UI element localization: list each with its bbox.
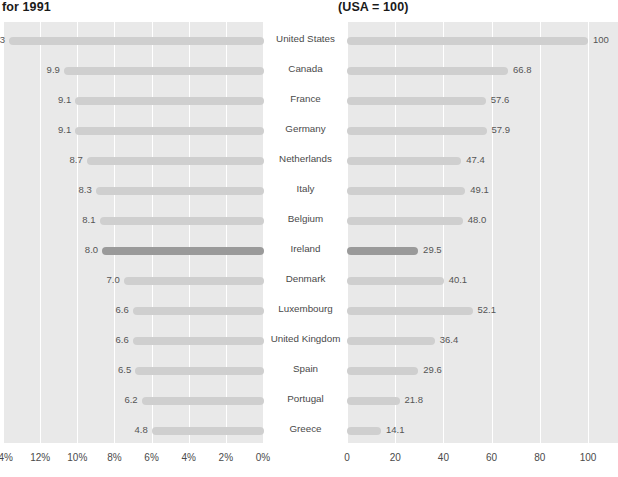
bar-right bbox=[347, 277, 444, 285]
bar-right bbox=[347, 427, 381, 435]
bar-left-container: 6.6 bbox=[3, 326, 264, 356]
bar-value-label-left: 9.1 bbox=[58, 124, 71, 135]
bar-left bbox=[100, 217, 264, 225]
bar-value-label-right: 29.6 bbox=[423, 364, 442, 375]
bar-right bbox=[347, 37, 588, 45]
chart-row: 9.1France57.6 bbox=[0, 86, 618, 116]
chart-row: 9.1Germany57.9 bbox=[0, 116, 618, 146]
bar-value-label-left: 8.7 bbox=[70, 154, 83, 165]
chart-row: 8.1Belgium48.0 bbox=[0, 206, 618, 236]
bar-right-container: 29.5 bbox=[347, 236, 618, 266]
category-label: Portugal bbox=[264, 393, 347, 404]
chart-row: 8.3Italy49.1 bbox=[0, 176, 618, 206]
x-tick-right: 100 bbox=[580, 452, 597, 463]
bar-left bbox=[142, 397, 264, 405]
category-label: France bbox=[264, 93, 347, 104]
x-tick-left: 8% bbox=[107, 452, 121, 463]
bar-right-container: 57.9 bbox=[347, 116, 618, 146]
x-tick-left: 12% bbox=[30, 452, 50, 463]
bar-left-container: 7.0 bbox=[3, 266, 264, 296]
bar-value-label-left: 8.3 bbox=[78, 184, 91, 195]
bar-value-label-right: 47.4 bbox=[466, 154, 485, 165]
category-label: Germany bbox=[264, 123, 347, 134]
bar-right bbox=[347, 367, 418, 375]
bar-left-container: 13.3 bbox=[3, 26, 264, 56]
paired-bar-chart: 13.3United States1009.9Canada66.89.1Fran… bbox=[0, 0, 618, 477]
category-label: Belgium bbox=[264, 213, 347, 224]
bar-left-container: 9.9 bbox=[3, 56, 264, 86]
bar-value-label-right: 100 bbox=[593, 34, 609, 45]
category-label: Canada bbox=[264, 63, 347, 74]
bar-right-container: 66.8 bbox=[347, 56, 618, 86]
x-tick-right: 80 bbox=[534, 452, 545, 463]
bar-value-label-right: 49.1 bbox=[470, 184, 489, 195]
bar-right-container: 40.1 bbox=[347, 266, 618, 296]
x-tick-left: 4% bbox=[181, 452, 195, 463]
x-tick-left: 6% bbox=[144, 452, 158, 463]
bar-value-label-right: 36.4 bbox=[440, 334, 459, 345]
bar-left bbox=[133, 337, 264, 345]
x-tick-right: 60 bbox=[486, 452, 497, 463]
x-tick-left: 0% bbox=[256, 452, 270, 463]
bar-right bbox=[347, 127, 487, 135]
bar-right-container: 47.4 bbox=[347, 146, 618, 176]
x-tick-right: 40 bbox=[438, 452, 449, 463]
bar-value-label-right: 57.6 bbox=[491, 94, 510, 105]
bar-value-label-left: 9.9 bbox=[47, 64, 60, 75]
bar-right-container: 14.1 bbox=[347, 416, 618, 446]
category-label: Denmark bbox=[264, 273, 347, 284]
bar-left-container: 8.1 bbox=[3, 206, 264, 236]
bar-right bbox=[347, 307, 473, 315]
bar-left bbox=[135, 367, 264, 375]
chart-row: 7.0Denmark40.1 bbox=[0, 266, 618, 296]
bar-left bbox=[87, 157, 264, 165]
bar-left bbox=[102, 247, 264, 255]
bar-value-label-left: 8.0 bbox=[85, 244, 98, 255]
chart-row: 9.9Canada66.8 bbox=[0, 56, 618, 86]
bar-right bbox=[347, 67, 508, 75]
x-tick-left: 2% bbox=[219, 452, 233, 463]
x-tick-left: 14% bbox=[0, 452, 13, 463]
bar-right bbox=[347, 337, 435, 345]
bar-left bbox=[124, 277, 264, 285]
category-label: Spain bbox=[264, 363, 347, 374]
bar-right bbox=[347, 97, 486, 105]
bar-value-label-right: 48.0 bbox=[468, 214, 487, 225]
bar-right bbox=[347, 217, 463, 225]
bar-value-label-right: 66.8 bbox=[513, 64, 532, 75]
bar-right bbox=[347, 187, 465, 195]
bar-value-label-right: 40.1 bbox=[449, 274, 468, 285]
bar-left-container: 8.0 bbox=[3, 236, 264, 266]
chart-row: 8.0Ireland29.5 bbox=[0, 236, 618, 266]
chart-row: 8.7Netherlands47.4 bbox=[0, 146, 618, 176]
bar-value-label-right: 21.8 bbox=[405, 394, 424, 405]
bar-right-container: 36.4 bbox=[347, 326, 618, 356]
chart-row: 6.2Portugal21.8 bbox=[0, 386, 618, 416]
category-label: Ireland bbox=[264, 243, 347, 254]
bar-value-label-right: 52.1 bbox=[478, 304, 497, 315]
bar-right-container: 52.1 bbox=[347, 296, 618, 326]
bar-left bbox=[75, 127, 264, 135]
bar-right-container: 100 bbox=[347, 26, 618, 56]
category-label: Greece bbox=[264, 423, 347, 434]
category-label: Luxembourg bbox=[264, 303, 347, 314]
bar-left-container: 8.3 bbox=[3, 176, 264, 206]
category-label: Italy bbox=[264, 183, 347, 194]
bar-right bbox=[347, 247, 418, 255]
bar-left bbox=[133, 307, 264, 315]
category-label: Netherlands bbox=[264, 153, 347, 164]
bar-value-label-left: 6.2 bbox=[124, 394, 137, 405]
category-label: United Kingdom bbox=[264, 333, 347, 344]
bar-value-label-right: 57.9 bbox=[492, 124, 511, 135]
chart-row: 6.6Luxembourg52.1 bbox=[0, 296, 618, 326]
bar-value-label-left: 8.1 bbox=[82, 214, 95, 225]
bar-right-container: 21.8 bbox=[347, 386, 618, 416]
bar-left-container: 6.5 bbox=[3, 356, 264, 386]
x-axis-left: 14%12%10%8%6%4%2%0% bbox=[3, 452, 264, 468]
bar-right-container: 48.0 bbox=[347, 206, 618, 236]
bar-right-container: 57.6 bbox=[347, 86, 618, 116]
bar-left-container: 8.7 bbox=[3, 146, 264, 176]
bar-left-container: 9.1 bbox=[3, 116, 264, 146]
x-tick-right: 20 bbox=[390, 452, 401, 463]
bar-value-label-left: 7.0 bbox=[107, 274, 120, 285]
